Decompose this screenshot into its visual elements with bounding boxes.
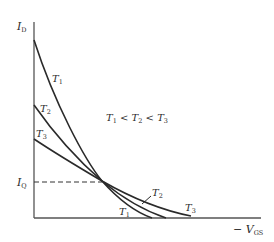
iq-label: IQ	[16, 176, 27, 190]
t1-top-label: T1	[52, 73, 63, 86]
transfer-characteristic-diagram: ID IQ − VGS T1 T2 T3 T1 T2 T3 T1 < T2 < …	[0, 0, 274, 242]
temperature-relation: T1 < T2 < T3	[106, 112, 168, 125]
curve-t3	[34, 139, 191, 216]
t3-bottom-label: T3	[185, 202, 196, 215]
t1-bottom-label: T1	[119, 206, 130, 219]
x-axis-label: − VGS	[233, 223, 263, 237]
t3-top-label: T3	[36, 128, 47, 141]
t2-bottom-label: T2	[152, 187, 163, 200]
y-axis-label: ID	[16, 20, 27, 34]
t2-top-label: T2	[40, 103, 51, 116]
